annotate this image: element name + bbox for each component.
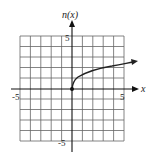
curve-arrow-icon [131, 59, 138, 65]
x-max-label: 5 [120, 92, 125, 102]
y-axis-label: n(x) [62, 9, 79, 21]
x-axis-label: x [140, 83, 146, 94]
function-graph: n(x) x -5 5 5 -5 [0, 0, 159, 159]
y-axis-arrow-icon [69, 20, 75, 27]
y-max-label: 5 [65, 33, 70, 43]
y-min-label: -5 [58, 138, 66, 148]
x-axis-arrow-icon [132, 86, 139, 92]
start-point-dot [70, 87, 74, 91]
x-min-label: -5 [12, 92, 20, 102]
